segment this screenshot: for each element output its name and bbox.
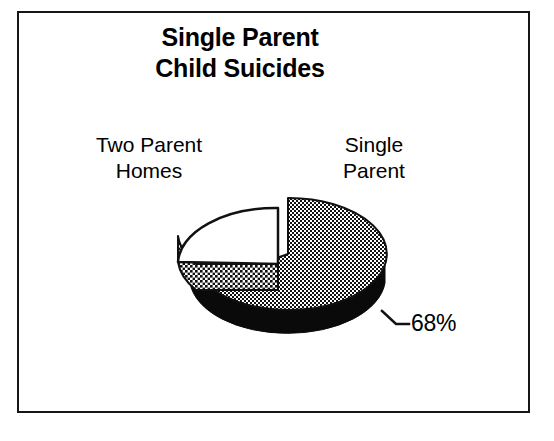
pie-slice-two-parent-homes bbox=[178, 208, 278, 290]
pie-chart-graphic bbox=[0, 0, 554, 441]
chart-figure: Single Parent Child Suicides Two Parent … bbox=[0, 0, 554, 441]
leader-line-68-percent bbox=[382, 311, 409, 324]
pie-slice-two-parent-homes-top bbox=[178, 208, 278, 264]
pie-value-label-68-percent: 68% bbox=[411, 309, 456, 337]
